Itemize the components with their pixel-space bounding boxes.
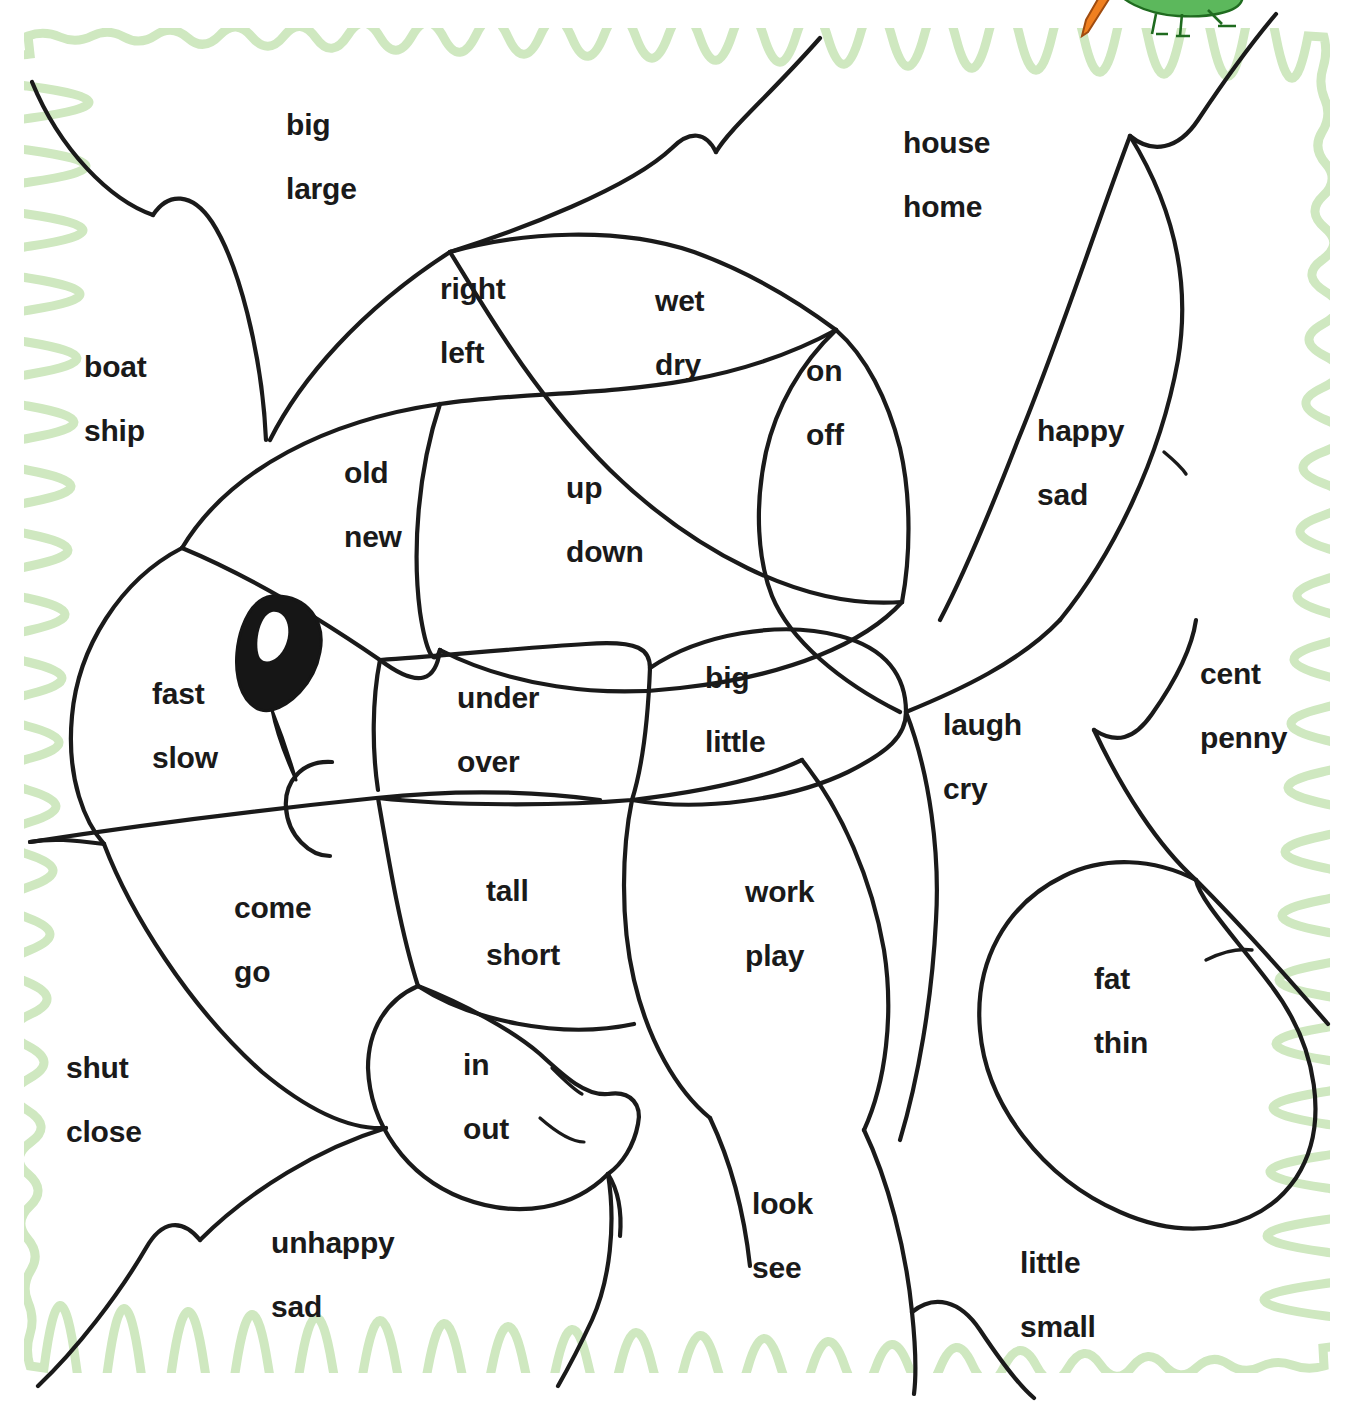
anal-fin-left — [710, 1118, 750, 1266]
scale-under-over-left — [374, 660, 380, 790]
word-secondary: large — [286, 174, 357, 204]
word-pair-up-down: updown — [566, 473, 644, 567]
scale-right-left-top — [450, 235, 836, 330]
word-pair-house-home: househome — [903, 128, 990, 222]
fish-eye-tail — [272, 710, 296, 780]
word-pair-big-little: biglittle — [705, 663, 765, 757]
word-pair-happy-sad: happysad — [1037, 416, 1124, 510]
word-primary: fat — [1094, 964, 1148, 994]
word-secondary: home — [903, 192, 990, 222]
word-primary: house — [903, 128, 990, 158]
word-secondary: cry — [943, 774, 1022, 804]
word-primary: in — [463, 1050, 509, 1080]
pectoral-fin-crease2 — [540, 1118, 584, 1142]
region-laugh-cry-left — [900, 712, 937, 1140]
word-secondary: penny — [1200, 723, 1287, 753]
word-primary: happy — [1037, 416, 1124, 446]
word-secondary: ship — [84, 416, 147, 446]
cent-penny-lower — [1094, 730, 1196, 880]
word-pair-under-over: underover — [457, 683, 539, 777]
word-secondary: out — [463, 1114, 509, 1144]
anal-fin-divider — [864, 1130, 915, 1394]
word-secondary: new — [344, 522, 402, 552]
ventral-fin-notch — [38, 1225, 200, 1386]
word-secondary: left — [440, 338, 506, 368]
word-primary: come — [234, 893, 312, 923]
word-secondary: see — [752, 1253, 813, 1283]
word-primary: shut — [66, 1053, 142, 1083]
dorsal-fin-middle — [716, 38, 820, 152]
word-secondary: go — [234, 957, 312, 987]
word-pair-little-small: littlesmall — [1020, 1248, 1096, 1342]
word-secondary: close — [66, 1117, 142, 1147]
word-pair-look-see: looksee — [752, 1189, 813, 1283]
divider-up-down-bottom — [440, 602, 902, 691]
word-pair-cent-penny: centpenny — [1200, 659, 1287, 753]
word-primary: under — [457, 683, 539, 713]
word-secondary: sad — [271, 1292, 395, 1322]
word-pair-in-out: inout — [463, 1050, 509, 1144]
word-primary: laugh — [943, 710, 1022, 740]
grasshopper-icon — [1060, 0, 1260, 44]
word-primary: wet — [655, 286, 704, 316]
word-pair-right-left: rightleft — [440, 274, 506, 368]
caudal-outer-edge — [1196, 880, 1328, 1024]
dorsal-fin-left — [32, 82, 153, 215]
scale-right-left-bottom — [270, 252, 450, 440]
word-secondary: thin — [1094, 1028, 1148, 1058]
ventral-fin-right — [558, 1174, 611, 1386]
word-pair-shut-close: shutclose — [66, 1053, 142, 1147]
scale-work-play-right — [802, 760, 888, 1130]
word-pair-come-go: comego — [234, 893, 312, 987]
happy-sad-tick — [1164, 452, 1186, 474]
scale-under-over-right — [632, 668, 650, 800]
region-laugh-cry-top — [906, 620, 1060, 712]
word-pair-unhappy-sad: unhappysad — [271, 1228, 395, 1322]
word-primary: look — [752, 1189, 813, 1219]
word-secondary: small — [1020, 1312, 1096, 1342]
gill-line — [30, 792, 600, 842]
word-primary: fast — [152, 679, 218, 709]
scale-big-little-bottom — [632, 712, 906, 805]
word-pair-tall-short: tallshort — [486, 876, 560, 970]
word-primary: up — [566, 473, 644, 503]
tail-upper-edge — [1060, 136, 1182, 620]
word-secondary: over — [457, 747, 539, 777]
word-secondary: dry — [655, 350, 704, 380]
word-primary: right — [440, 274, 506, 304]
word-secondary: little — [705, 727, 765, 757]
word-pair-old-new: oldnew — [344, 458, 402, 552]
word-pair-fast-slow: fastslow — [152, 679, 218, 773]
carrot-shape — [1082, 0, 1116, 36]
grasshopper-body — [1112, 0, 1243, 16]
scale-wet-dry-outer — [836, 330, 909, 602]
word-primary: tall — [486, 876, 560, 906]
word-primary: work — [745, 877, 814, 907]
word-pair-work-play: workplay — [745, 877, 814, 971]
word-primary: big — [705, 663, 765, 693]
word-primary: boat — [84, 352, 147, 382]
divider-up-down-left — [417, 404, 440, 657]
word-secondary: down — [566, 537, 644, 567]
word-secondary: short — [486, 940, 560, 970]
word-primary: on — [806, 356, 844, 386]
word-secondary: slow — [152, 743, 218, 773]
word-pair-big-large: biglarge — [286, 110, 357, 204]
pectoral-fin-crease1 — [552, 1068, 582, 1094]
word-pair-laugh-cry: laughcry — [943, 710, 1022, 804]
scale-work-play-left — [624, 800, 710, 1118]
scale-tall-short-bottom — [418, 986, 634, 1030]
pectoral-fin-lobe2 — [608, 1093, 639, 1174]
word-pair-wet-dry: wetdry — [655, 286, 704, 380]
dorsal-fin-left-notch — [153, 199, 266, 440]
body-ridge-old-new — [182, 330, 836, 548]
word-primary: cent — [1200, 659, 1287, 689]
word-pair-on-off: onoff — [806, 356, 844, 450]
word-secondary: play — [745, 941, 814, 971]
scale-under-over-top — [380, 643, 650, 668]
scale-tall-short-left — [378, 798, 418, 986]
ventral-fin-top — [200, 1128, 386, 1240]
fin-little-small — [912, 1302, 1034, 1398]
word-secondary: sad — [1037, 480, 1124, 510]
word-pair-fat-thin: fatthin — [1094, 964, 1148, 1058]
